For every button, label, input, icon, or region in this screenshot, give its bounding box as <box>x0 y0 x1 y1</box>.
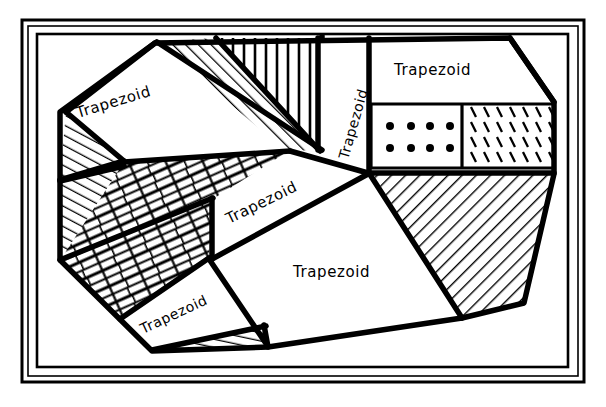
figure-canvas: TrapezoidTrapezoidTrapezoidTrapezoidTrap… <box>0 0 606 407</box>
pattern-dot <box>426 144 434 152</box>
pattern-dot <box>407 144 415 152</box>
trapezoid-partition-diagram: TrapezoidTrapezoidTrapezoidTrapezoidTrap… <box>0 0 606 407</box>
pattern-dot <box>426 122 434 130</box>
region-label-label-lower-center: Trapezoid <box>292 263 370 281</box>
pattern-dot <box>407 122 415 130</box>
pattern-dot <box>446 122 454 130</box>
pattern-dot <box>446 144 454 152</box>
pattern-dot <box>386 122 394 130</box>
pattern-dot <box>386 144 394 152</box>
tick-mark-rectangle <box>464 106 554 166</box>
region-label-label-top-right: Trapezoid <box>393 61 471 79</box>
